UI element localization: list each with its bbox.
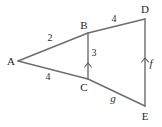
- segment-ac: [18, 61, 88, 79]
- vertex-label-e: E: [142, 110, 149, 122]
- vertex-label-d: D: [141, 3, 149, 15]
- measure-label-ab: 2: [48, 32, 53, 43]
- segment-bd: [88, 19, 145, 33]
- measure-label-bc: 3: [92, 47, 97, 58]
- vertex-label-b: B: [80, 19, 87, 31]
- vertex-label-c: C: [80, 81, 87, 93]
- geometry-figure: A B C D E 2 4 4 3 f g: [0, 0, 162, 127]
- measure-label-bd: 4: [112, 13, 117, 24]
- segment-ab: [18, 33, 88, 61]
- geometry-canvas: A B C D E 2 4 4 3 f g: [0, 0, 162, 127]
- measure-label-ce: g: [110, 92, 116, 104]
- measure-label-de: f: [149, 57, 154, 69]
- vertex-label-a: A: [7, 55, 15, 67]
- measure-label-ac: 4: [46, 71, 51, 82]
- segment-ce: [88, 79, 145, 106]
